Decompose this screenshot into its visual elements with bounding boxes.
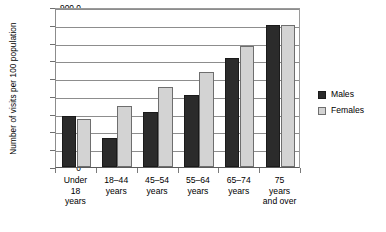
bar-group (97, 9, 138, 167)
x-axis-tick-mark (96, 168, 97, 173)
bar-group (179, 9, 220, 167)
x-axis-label-line: 75 (253, 175, 306, 186)
bar-males-4 (225, 58, 240, 167)
bar-females-2 (158, 87, 173, 167)
bar-group (56, 9, 97, 167)
x-axis-tick-mark (178, 168, 179, 173)
legend-item-males[interactable]: Males (318, 90, 364, 99)
bar-females-4 (240, 46, 255, 167)
bar-females-3 (199, 72, 214, 167)
x-axis-label-line: and over (253, 196, 306, 207)
bar-males-2 (143, 112, 158, 167)
chart-legend: MalesFemales (318, 90, 364, 122)
x-axis-label-line: years (49, 196, 102, 207)
bar-chart-figure: Number of visits per 100 population 900.… (0, 0, 386, 232)
plot-area (55, 8, 300, 168)
bar-males-0 (62, 116, 77, 167)
legend-swatch-icon (318, 91, 326, 99)
x-axis-tick-mark (259, 168, 260, 173)
y-axis-title: Number of visits per 100 population (9, 14, 18, 164)
x-axis-tick-mark (137, 168, 138, 173)
bar-group (219, 9, 260, 167)
x-axis-tick-mark (55, 168, 56, 173)
legend-item-label: Males (331, 90, 354, 99)
legend-item-females[interactable]: Females (318, 106, 364, 115)
bar-males-1 (102, 138, 117, 167)
bar-group (260, 9, 301, 167)
bar-females-0 (77, 119, 92, 167)
x-axis-label-line: years (253, 186, 306, 197)
bar-males-5 (266, 25, 281, 167)
legend-swatch-icon (318, 107, 326, 115)
legend-item-label: Females (331, 106, 364, 115)
bar-group (138, 9, 179, 167)
bar-males-3 (184, 95, 199, 167)
bar-series-container (56, 9, 299, 167)
bar-females-5 (281, 25, 296, 167)
x-axis-category-label: 75yearsand over (253, 175, 306, 207)
bar-females-1 (117, 106, 132, 167)
x-axis-tick-mark (300, 168, 301, 173)
x-axis-tick-mark (218, 168, 219, 173)
